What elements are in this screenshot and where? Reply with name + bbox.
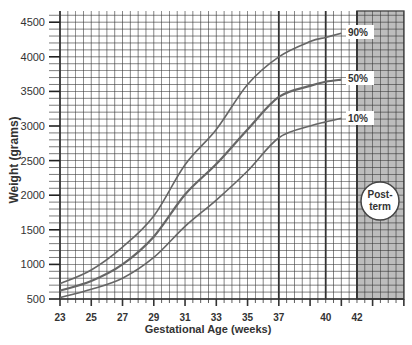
y-tick-label: 4000 (21, 51, 45, 63)
x-tick-label: 29 (148, 312, 160, 323)
x-tick-label: 33 (211, 312, 223, 323)
y-tick-label: 2500 (21, 155, 45, 167)
post-term-label-line2: term (369, 201, 391, 212)
x-tick-label: 23 (54, 312, 66, 323)
y-tick-label: 3000 (21, 120, 45, 132)
y-tick-label: 500 (27, 293, 45, 305)
x-tick-label: 25 (86, 312, 98, 323)
y-tick-label: 1500 (21, 224, 45, 236)
y-tick-label: 2000 (21, 189, 45, 201)
y-tick-label: 1000 (21, 258, 45, 270)
y-tick-label: 4500 (21, 16, 45, 28)
x-tick-label: 40 (320, 312, 332, 323)
x-tick-label: 27 (117, 312, 129, 323)
y-tick-label: 3500 (21, 85, 45, 97)
growth-chart: 50010001500200025003000350040004500 2325… (0, 0, 412, 345)
label-90-percentile: 90% (348, 27, 368, 38)
x-tick-label: 37 (273, 312, 285, 323)
post-term-label-line1: Post- (368, 189, 393, 200)
label-10-percentile: 10% (348, 113, 368, 124)
y-axis-ticks: 50010001500200025003000350040004500 (21, 15, 60, 305)
y-axis-title: Weight (grams) (7, 116, 21, 203)
label-50-percentile: 50% (348, 73, 368, 84)
x-tick-label: 31 (179, 312, 191, 323)
x-axis-ticks: 23252729313335374042 (54, 299, 403, 323)
x-tick-label: 35 (242, 312, 254, 323)
x-axis-title: Gestational Age (weeks) (145, 323, 272, 335)
x-tick-label: 42 (351, 312, 363, 323)
